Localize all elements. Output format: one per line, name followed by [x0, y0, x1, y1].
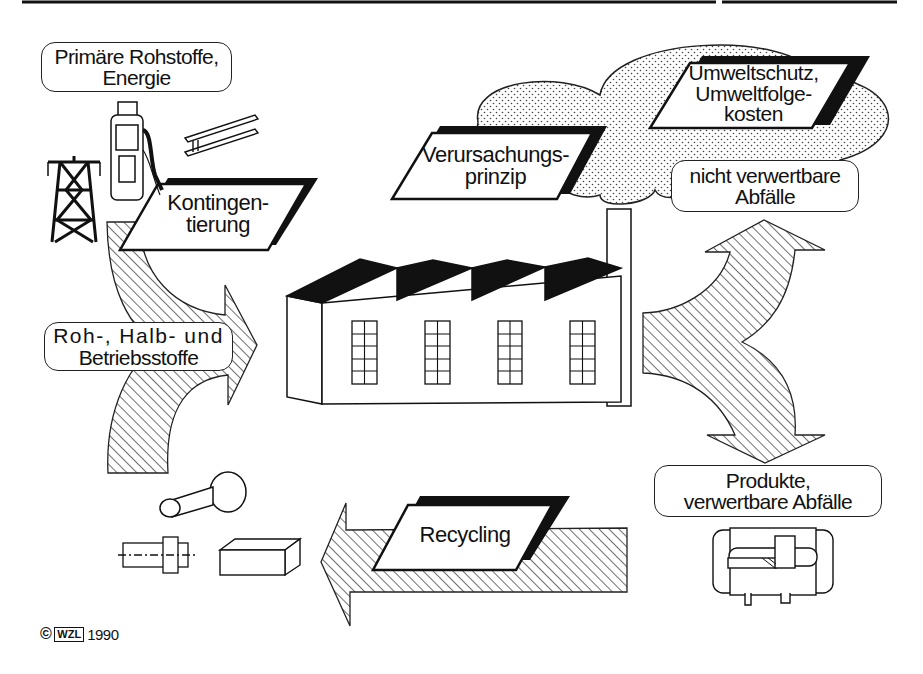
- polluter-pays-label: Verursachungs- prinzip: [413, 144, 578, 189]
- polluter-pays-line1: Verursachungs-: [413, 144, 578, 166]
- products-line2: verwertbare Abfälle: [684, 491, 852, 512]
- products-line1: Produkte,: [726, 470, 811, 491]
- primary-resources-line2: Energie: [102, 67, 170, 88]
- non-recyclable-waste-line2: Abfälle: [735, 186, 795, 207]
- primary-resources-line1: Primäre Rohstoffe,: [55, 46, 219, 67]
- materials-line1: Roh-, Halb- und: [53, 325, 224, 346]
- environment-line2: Umweltfolge-: [666, 84, 841, 105]
- environment-label: Umweltschutz, Umweltfolge- kosten: [666, 63, 841, 125]
- power-pylon-icon: [48, 156, 100, 242]
- output-flow-arrow: [643, 220, 825, 463]
- gearbox-icon: [713, 528, 833, 605]
- materials-box: Roh-, Halb- und Betriebsstoffe: [44, 322, 233, 371]
- quota-label: Kontingen- tierung: [148, 192, 288, 237]
- quota-line2: tierung: [148, 214, 288, 236]
- recycling-label: Recycling: [400, 524, 530, 546]
- environment-line1: Umweltschutz,: [666, 63, 841, 84]
- recycling-line1: Recycling: [400, 524, 530, 546]
- environment-line3: kosten: [666, 104, 841, 125]
- non-recyclable-waste-box: nicht verwertbare Abfälle: [671, 160, 859, 212]
- non-recyclable-waste-line1: nicht verwertbare: [690, 165, 841, 186]
- factory-icon: [287, 209, 631, 406]
- wzl-logo: WZL: [54, 627, 84, 642]
- materials-line2: Betriebsstoffe: [79, 347, 199, 368]
- products-box: Produkte, verwertbare Abfälle: [654, 465, 882, 517]
- polluter-pays-line2: prinzip: [413, 166, 578, 188]
- block-part-icon: [220, 539, 300, 575]
- primary-resources-box: Primäre Rohstoffe, Energie: [41, 42, 232, 92]
- shaft-part-icon: [160, 472, 246, 517]
- fuel-pump-icon: [111, 102, 162, 200]
- copyright-year: 1990: [87, 626, 118, 643]
- copyright-symbol: ©: [40, 625, 51, 643]
- copyright-footer: © WZL 1990: [40, 625, 119, 643]
- steel-beam-icon: [185, 115, 258, 156]
- quota-line1: Kontingen-: [148, 192, 288, 214]
- stepped-shaft-drawing-icon: [118, 537, 196, 573]
